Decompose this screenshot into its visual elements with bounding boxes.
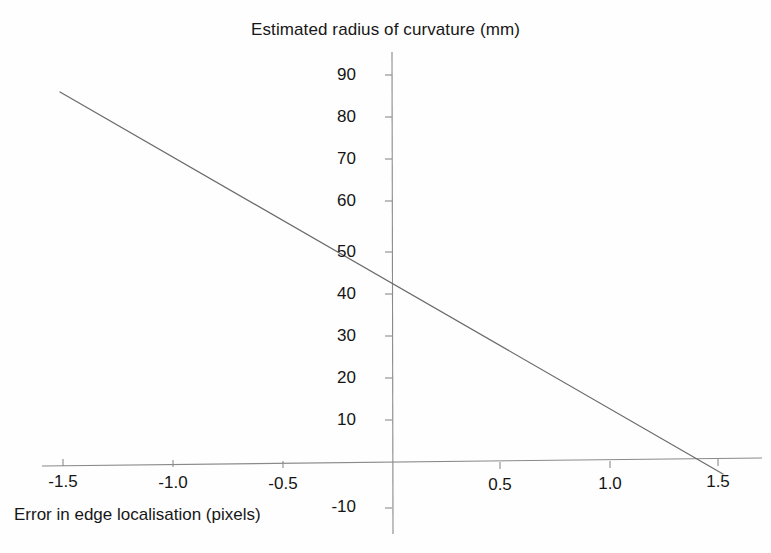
y-tick-label-minus-10: -10 <box>312 497 356 517</box>
y-axis-ticks <box>385 75 392 508</box>
y-tick-label-90: 90 <box>312 65 356 85</box>
y-tick-label-20: 20 <box>312 368 356 388</box>
x-tick-label-0-5: 0.5 <box>472 475 528 495</box>
axis-lines <box>42 52 762 534</box>
chart-figure: Estimated radius of curvature (mm) <box>0 0 771 553</box>
x-tick-label-1-5: 1.5 <box>690 472 746 492</box>
x-axis-title: Error in edge localisation (pixels) <box>14 505 261 525</box>
y-tick-label-80: 80 <box>312 107 356 127</box>
series-line-estimated-radius <box>60 92 723 474</box>
plot-area <box>0 0 771 553</box>
y-tick-label-30: 30 <box>312 326 356 346</box>
y-tick-label-40: 40 <box>312 284 356 304</box>
x-tick-label-minus-1-5: -1.5 <box>35 472 91 492</box>
y-tick-label-60: 60 <box>312 191 356 211</box>
data-series-line <box>60 92 723 474</box>
x-tick-label-1-0: 1.0 <box>582 474 638 494</box>
x-tick-label-minus-1-0: -1.0 <box>145 473 201 493</box>
x-axis-line <box>42 458 762 466</box>
x-axis-ticks <box>63 459 718 469</box>
x-tick-label-minus-0-5: -0.5 <box>255 474 311 494</box>
y-tick-label-10: 10 <box>312 410 356 430</box>
y-tick-label-50: 50 <box>312 242 356 262</box>
y-tick-label-70: 70 <box>312 149 356 169</box>
